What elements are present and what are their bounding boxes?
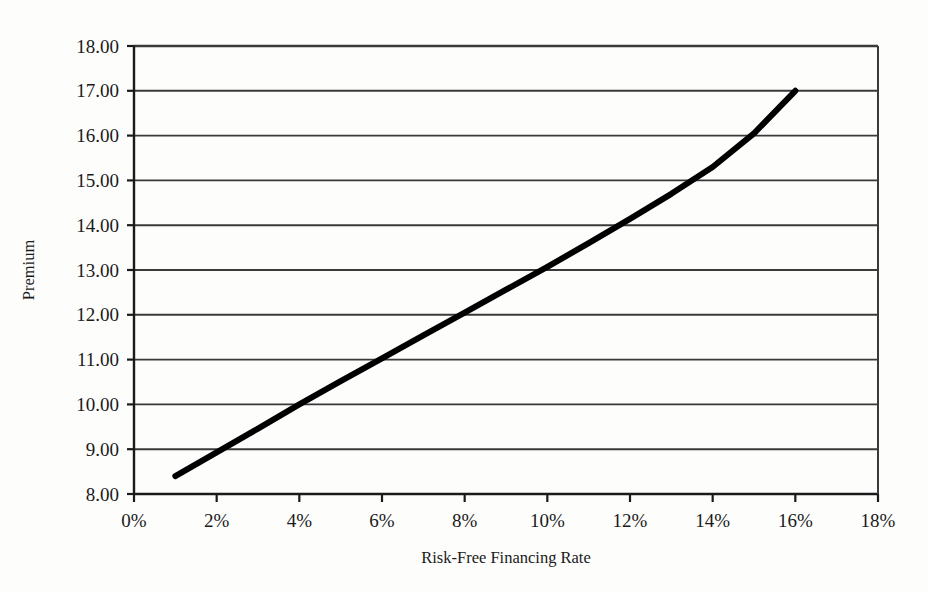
y-axis-title: Premium	[19, 240, 38, 301]
y-tick-label: 15.00	[76, 170, 119, 191]
y-tick-label: 13.00	[76, 260, 119, 281]
x-axis-title: Risk-Free Financing Rate	[421, 548, 591, 567]
y-tick-label: 16.00	[76, 125, 119, 146]
y-tick-label: 8.00	[86, 484, 119, 505]
x-tick-label: 16%	[778, 510, 813, 531]
y-tick-label: 18.00	[76, 36, 119, 57]
y-tick-label: 17.00	[76, 80, 119, 101]
x-tick-label: 12%	[613, 510, 648, 531]
y-tick-label: 14.00	[76, 215, 119, 236]
y-tick-label: 11.00	[77, 349, 119, 370]
chart-figure: 8.009.0010.0011.0012.0013.0014.0015.0016…	[0, 0, 928, 591]
x-tick-label: 10%	[530, 510, 565, 531]
x-tick-label: 2%	[204, 510, 230, 531]
premium-vs-riskfree-rate-line-chart: 8.009.0010.0011.0012.0013.0014.0015.0016…	[0, 0, 928, 591]
x-tick-label: 6%	[369, 510, 395, 531]
x-tick-label: 0%	[121, 510, 147, 531]
y-tick-label: 9.00	[86, 439, 119, 460]
x-tick-label: 4%	[287, 510, 313, 531]
x-tick-label: 18%	[861, 510, 896, 531]
y-tick-label: 12.00	[76, 304, 119, 325]
y-tick-label: 10.00	[76, 394, 119, 415]
x-tick-label: 14%	[695, 510, 730, 531]
x-tick-label: 8%	[452, 510, 478, 531]
